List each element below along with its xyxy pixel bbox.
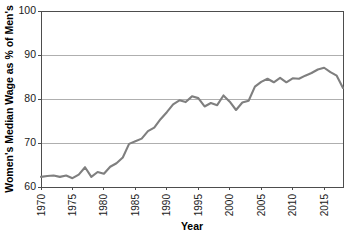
chart-figure: 60708090100 1970197519801985199019952000…	[0, 0, 352, 235]
x-tick-label-1995: 1995	[193, 194, 204, 217]
x-tick-label-2015: 2015	[319, 194, 330, 217]
y-axis-title: Women's Median Wage as % of Men's	[3, 5, 15, 193]
y-tick-label-90: 90	[24, 48, 36, 60]
x-tick-label-2000: 2000	[224, 194, 235, 217]
x-tick-label-2005: 2005	[256, 194, 267, 217]
y-tick-label-100: 100	[18, 4, 36, 16]
y-tick-label-60: 60	[24, 180, 36, 192]
x-tick-label-2010: 2010	[287, 194, 298, 217]
x-axis-title: Year	[181, 220, 203, 232]
y-tick-label-70: 70	[24, 136, 36, 148]
y-tick-label-80: 80	[24, 92, 36, 104]
x-axis-ticks: 1970197519801985199019952000200520102015	[36, 187, 330, 216]
x-tick-label-1970: 1970	[36, 194, 47, 217]
x-tick-label-1985: 1985	[130, 194, 141, 217]
x-tick-label-1975: 1975	[67, 194, 78, 217]
x-tick-label-1980: 1980	[98, 194, 109, 217]
x-tick-label-1990: 1990	[161, 194, 172, 217]
y-axis-ticks: 60708090100	[18, 4, 41, 192]
line-chart: 60708090100 1970197519801985199019952000…	[0, 0, 352, 235]
